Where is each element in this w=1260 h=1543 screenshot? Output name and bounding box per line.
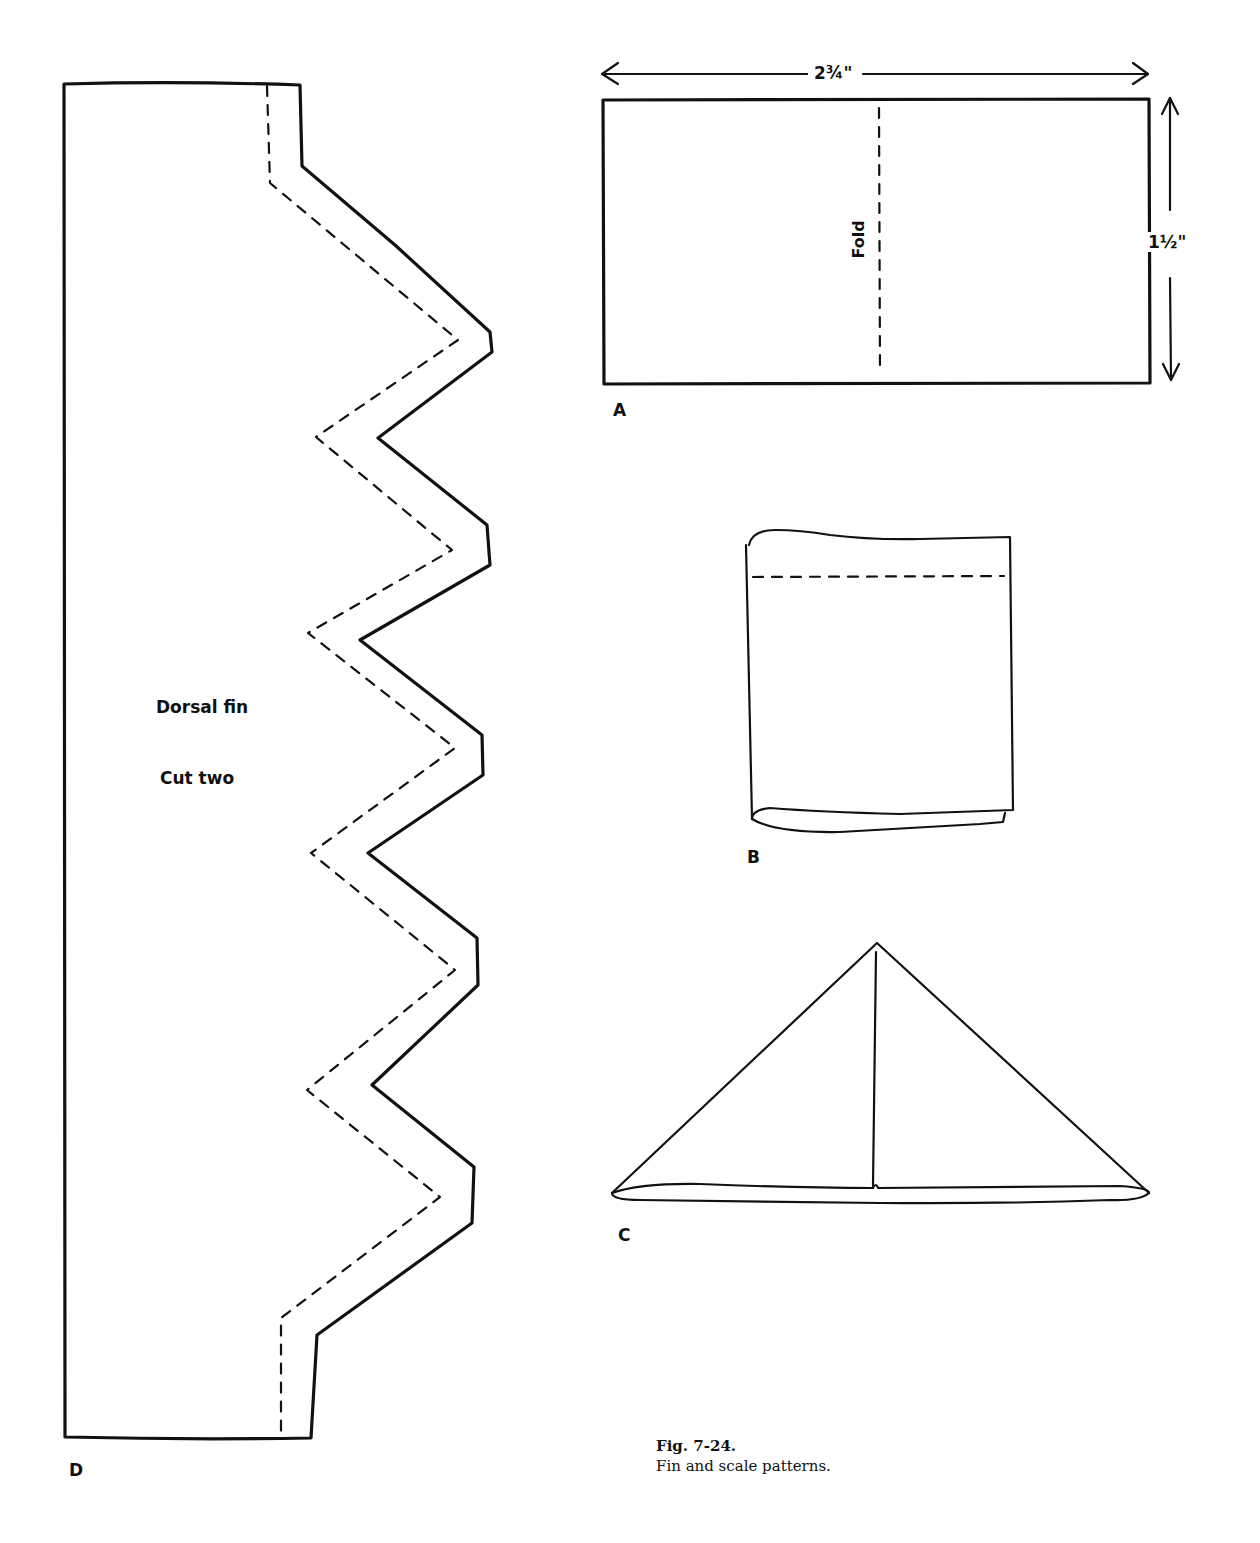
- fold-label: Fold: [849, 220, 868, 260]
- dorsal-fin-title: Dorsal fin: [156, 697, 248, 717]
- panel-b-stitch-line: [753, 576, 1004, 577]
- panel-c-triangle: [612, 943, 1149, 1203]
- panel-a-rectangle: [602, 63, 1179, 384]
- dorsal-fin-pattern: [64, 83, 492, 1439]
- panel-a-label: A: [613, 400, 626, 420]
- panel-a-outline: [603, 99, 1150, 384]
- width-dimension-label: 2¾": [808, 63, 858, 83]
- figure-number: Fig. 7-24.: [656, 1436, 831, 1456]
- panel-b-bottom-fold: [752, 813, 1005, 832]
- panel-b-outline: [746, 530, 1013, 819]
- panel-c-label: C: [618, 1225, 630, 1245]
- panel-a-fold-line: [879, 108, 880, 370]
- height-arrow-bottom-segment: [1170, 278, 1171, 380]
- panel-b-folded-rectangle: [746, 530, 1013, 832]
- panel-c-outline: [612, 943, 1149, 1193]
- cut-two-instruction: Cut two: [160, 768, 234, 788]
- panel-c-center-seam: [873, 952, 876, 1186]
- figure-caption: Fig. 7-24. Fin and scale patterns.: [656, 1436, 831, 1476]
- dorsal-fin-outline: [64, 83, 492, 1439]
- panel-c-base-fold: [612, 1184, 1149, 1203]
- figure-description: Fin and scale patterns.: [656, 1456, 831, 1476]
- height-dimension-label: 1½": [1146, 232, 1188, 252]
- dorsal-fin-seam-line: [267, 86, 458, 1438]
- panel-b-label: B: [747, 847, 760, 867]
- panel-d-label: D: [69, 1460, 83, 1480]
